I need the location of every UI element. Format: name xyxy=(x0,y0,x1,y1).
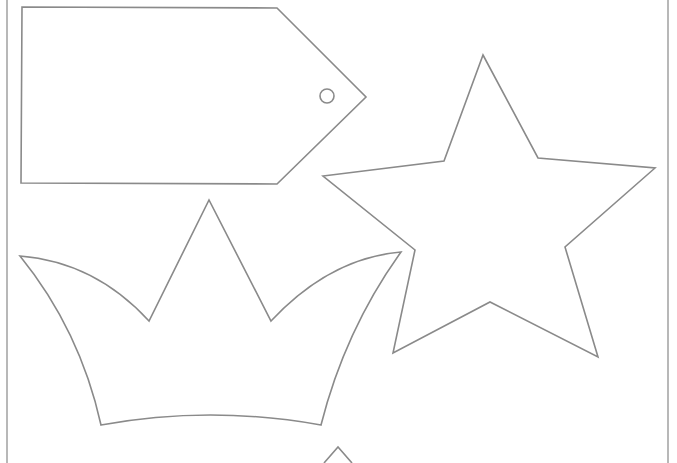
tag-hole-icon xyxy=(320,89,334,103)
star-shape xyxy=(323,55,655,357)
shapes-canvas xyxy=(0,0,677,463)
gift-tag-shape xyxy=(21,7,366,184)
crown-shape xyxy=(20,200,401,425)
partial-triangle-shape xyxy=(324,447,352,463)
coloring-page xyxy=(0,0,677,463)
